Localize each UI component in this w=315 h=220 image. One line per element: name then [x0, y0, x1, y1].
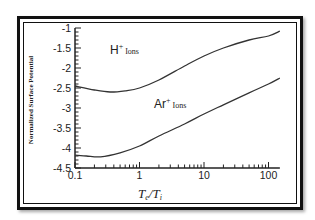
- x-tick-label: 100: [260, 169, 278, 181]
- y-tick-label: -4: [62, 142, 71, 154]
- x-axis-label: Te/Ti: [138, 186, 162, 202]
- y-tick-label: -1: [62, 22, 71, 34]
- y-tick-label: -3: [62, 102, 71, 114]
- series-h-ions-line: [75, 31, 280, 92]
- series-ar-ions-line: [75, 78, 280, 157]
- y-axis-label: Normalized Surface Potential: [27, 56, 35, 144]
- line-chart: -1-1.5-2-2.5-3-3.5-4-4.50.1110100 Normal…: [0, 0, 315, 220]
- y-tick-label: -2.5: [53, 82, 71, 94]
- x-tick-label: 10: [198, 169, 210, 181]
- y-tick-label: -2: [62, 62, 71, 74]
- x-tick-label: 1: [137, 169, 143, 181]
- y-tick-label: -1.5: [53, 42, 71, 54]
- y-tick-label: -3.5: [53, 122, 71, 134]
- annotation-h-ions: H+Ions: [110, 42, 139, 57]
- annotation-ar-ions: Ar+Ions: [154, 96, 186, 111]
- data-series: [75, 31, 280, 157]
- x-tick-label: 0.1: [68, 169, 83, 181]
